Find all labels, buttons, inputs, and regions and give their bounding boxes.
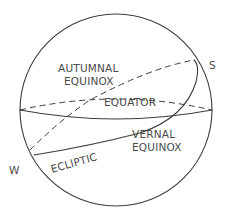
equator-label: EQUATOR: [104, 96, 156, 108]
autumnal-equinox-label-2: EQUINOX: [64, 75, 114, 87]
ecliptic-label: ECLIPTIC: [49, 150, 98, 175]
vernal-equinox-label-2: EQUINOX: [132, 141, 182, 153]
west-label: W: [9, 164, 20, 176]
celestial-sphere-diagram: AUTUMNAL EQUINOX EQUATOR VERNAL EQUINOX …: [0, 0, 232, 219]
sphere-outline: [20, 14, 212, 206]
autumnal-equinox-label-1: AUTUMNAL: [58, 62, 119, 74]
south-label: S: [209, 59, 216, 71]
vernal-equinox-label-1: VERNAL: [132, 128, 175, 140]
equator-front: [20, 110, 212, 119]
sphere-svg: AUTUMNAL EQUINOX EQUATOR VERNAL EQUINOX …: [0, 0, 232, 219]
